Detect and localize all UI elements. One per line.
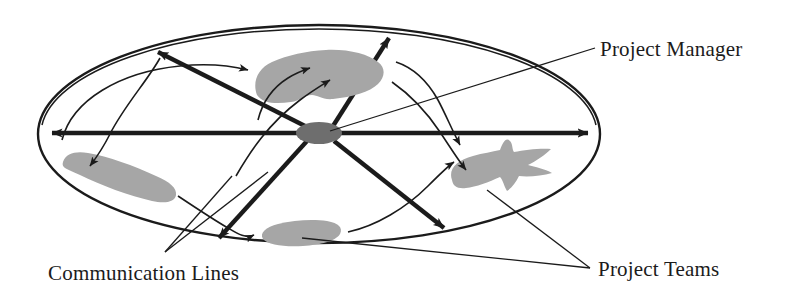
project-manager-hub: [296, 122, 342, 144]
project-team-left-shape: [63, 152, 176, 202]
communication-arrow-6: [392, 82, 466, 170]
label-communication-lines: Communication Lines: [48, 261, 239, 285]
leader-line-teams-b: [302, 238, 590, 268]
label-project-teams: Project Teams: [598, 257, 719, 281]
project-team-right-shape: [451, 140, 552, 191]
leader-line-communication-b: [165, 176, 232, 252]
project-team-top-shape: [255, 50, 383, 103]
label-project-manager: Project Manager: [600, 37, 742, 61]
communication-arrow-2: [90, 58, 160, 166]
communication-arrow-1: [62, 65, 248, 140]
diagram-svg: Project Manager Communication Lines Proj…: [0, 0, 800, 301]
diagram-canvas: Project Manager Communication Lines Proj…: [0, 0, 800, 301]
